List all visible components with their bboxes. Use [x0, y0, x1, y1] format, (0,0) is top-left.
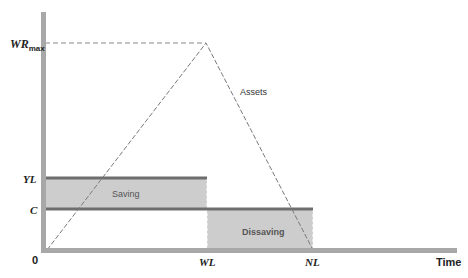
nl-label: NL — [304, 256, 320, 268]
c-label: C — [30, 204, 38, 216]
wl-label: WL — [199, 256, 216, 268]
life-cycle-diagram: WRmax YL C 0 WL NL Time Assets Saving Di… — [0, 0, 468, 278]
dissaving-annotation: Dissaving — [242, 227, 285, 237]
zero-label: 0 — [32, 254, 38, 266]
saving-annotation: Saving — [112, 189, 140, 199]
time-label: Time — [436, 256, 461, 268]
wrmax-label: WRmax — [10, 37, 45, 53]
x-axis — [41, 248, 457, 253]
assets-annotation: Assets — [240, 87, 268, 97]
yl-label: YL — [23, 173, 37, 185]
